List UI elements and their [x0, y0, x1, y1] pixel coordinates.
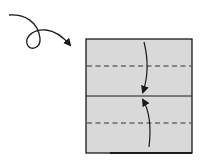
- turn-over-arrow-icon: [9, 15, 70, 48]
- fold-diagram: [0, 0, 206, 163]
